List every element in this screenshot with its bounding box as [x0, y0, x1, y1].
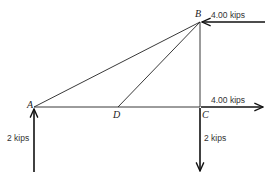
- force-label-c-horizontal: 4.00 kips: [211, 95, 245, 105]
- member-db: [118, 22, 200, 107]
- member-ab: [34, 22, 200, 107]
- force-label-c-vertical: 2 kips: [204, 133, 226, 143]
- node-label-d: D: [112, 109, 121, 120]
- node-label-b: B: [195, 8, 201, 19]
- node-label-a: A: [26, 99, 34, 110]
- truss-diagram: A B C D 4.00 kips 4.00 kips 2 kips 2 kip…: [0, 0, 273, 180]
- force-label-b: 4.00 kips: [211, 10, 245, 20]
- force-label-a: 2 kips: [7, 133, 29, 143]
- node-label-c: C: [202, 109, 209, 120]
